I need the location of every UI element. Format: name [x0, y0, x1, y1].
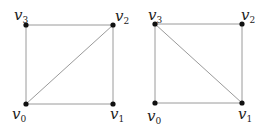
label-v2: v2: [115, 7, 129, 26]
edge-v3-v1: [155, 24, 242, 103]
right-graph: v3 v2 v0 v1: [147, 6, 255, 126]
left-graph: v3 v2 v0 v1: [12, 6, 129, 124]
label-v2: v2: [241, 6, 255, 25]
label-v1: v1: [110, 105, 124, 124]
label-v1: v1: [238, 105, 252, 124]
label-v0: v0: [12, 105, 26, 124]
label-v3: v3: [14, 6, 28, 25]
vertex-v0: [23, 101, 28, 106]
label-v0: v0: [147, 107, 161, 126]
label-v3: v3: [148, 6, 162, 25]
edge-v0-v2: [26, 25, 113, 104]
triangulation-diagram: v3 v2 v0 v1 v3 v2 v0 v1: [0, 0, 268, 126]
vertex-v0: [152, 100, 157, 105]
